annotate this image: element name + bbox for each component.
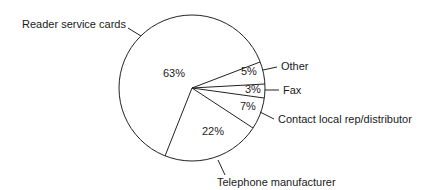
label-telephone: Telephone manufacturer [217, 176, 336, 188]
leader-telephone [218, 160, 225, 175]
pie-chart: 63% 5% 3% 7% 22% Reader service cards Ot… [0, 0, 435, 190]
boundary-telephone-reader [165, 88, 192, 156]
leader-reader [128, 28, 141, 36]
pct-fax: 3% [245, 83, 261, 95]
leader-contact [260, 112, 274, 119]
label-contact: Contact local rep/distributor [278, 113, 412, 125]
label-fax: Fax [283, 84, 302, 96]
label-other: Other [281, 60, 309, 72]
pct-telephone: 22% [202, 125, 224, 137]
pct-other: 5% [241, 65, 257, 77]
pct-contact: 7% [240, 100, 256, 112]
label-reader: Reader service cards [22, 18, 126, 30]
leader-other [263, 67, 277, 70]
pct-reader: 63% [163, 67, 185, 79]
